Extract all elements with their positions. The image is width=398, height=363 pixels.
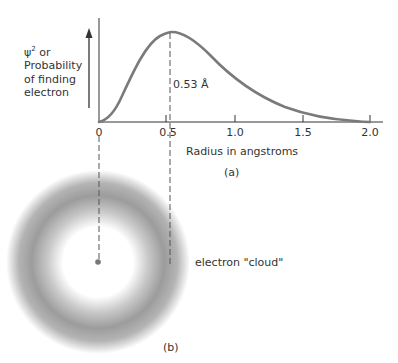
- y-axis-arrow: [86, 28, 93, 108]
- x-tick-label-1.5: 1.5: [294, 126, 312, 139]
- panel-a-label: (a): [224, 166, 239, 179]
- panel-b-label: (b): [163, 341, 179, 354]
- y-label-line2: Probability: [24, 59, 82, 73]
- probability-curve: [99, 32, 370, 122]
- nucleus-dot: [95, 259, 101, 265]
- x-tick-label-2.0: 2.0: [361, 126, 379, 139]
- electron-cloud-label: electron "cloud": [195, 256, 283, 269]
- x-tick-label-1.0: 1.0: [226, 126, 244, 139]
- y-axis-label: ψ2 or Probability of finding electron: [24, 43, 82, 100]
- x-axis-label: Radius in angstroms: [186, 145, 298, 158]
- y-label-line3: of finding: [24, 73, 82, 87]
- x-tick-label-0.5: 0.5: [159, 126, 177, 139]
- x-tick-label-0: 0: [96, 126, 103, 139]
- psi-or: or: [36, 46, 51, 59]
- y-label-line4: electron: [24, 86, 82, 100]
- peak-annotation: 0.53 Å: [173, 78, 209, 91]
